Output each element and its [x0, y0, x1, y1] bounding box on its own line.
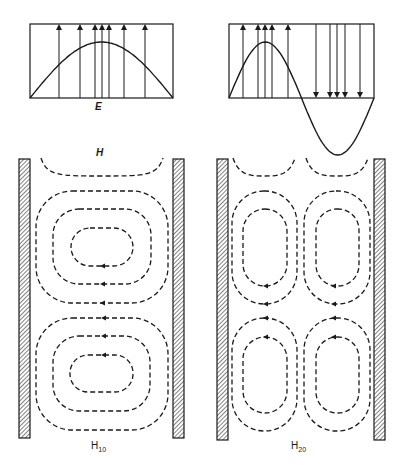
- h-field-loop: [243, 209, 287, 286]
- e-field-box: [229, 24, 374, 98]
- h-field-loop: [36, 191, 168, 303]
- waveguide-wall: [19, 159, 30, 438]
- h-field-direction-arrow-icon: [331, 302, 336, 307]
- h-field-direction-arrow-icon: [101, 334, 106, 339]
- waveguide-mode-diagram: [0, 0, 402, 465]
- h-field-loop: [316, 337, 359, 413]
- h-field-label: H: [96, 147, 103, 158]
- h-field-loop: [71, 228, 133, 266]
- h-field-direction-arrow-icon: [263, 316, 268, 321]
- h-field-loop-set: [36, 316, 168, 431]
- mode-label-h20: H20: [291, 440, 306, 453]
- h-field-loop: [36, 318, 168, 430]
- h-field-loop: [304, 191, 370, 304]
- h-field-waveguides: [19, 158, 385, 440]
- h-field-loop: [70, 355, 133, 392]
- h10-e-field: [30, 24, 173, 98]
- h-field-direction-arrow-icon: [100, 301, 105, 306]
- h-field-direction-arrow-icon: [101, 353, 106, 358]
- h-field-loop: [304, 318, 370, 431]
- h-field-direction-arrow-icon: [263, 302, 268, 307]
- h-field-loop: [53, 336, 150, 411]
- mode-label-h10: H10: [91, 440, 106, 453]
- h-field-direction-arrow-icon: [101, 316, 106, 321]
- h-field-loop-set: [36, 191, 168, 306]
- h-field-loop-set: [232, 191, 370, 307]
- h-field-partial-loop: [233, 158, 295, 176]
- h-field-loop: [316, 209, 359, 286]
- e-field-panels: [30, 24, 374, 155]
- h-field-direction-arrow-icon: [331, 335, 336, 340]
- e-field-label: E: [95, 101, 102, 112]
- h-field-loop: [53, 209, 151, 284]
- h-field-direction-arrow-icon: [100, 282, 105, 287]
- h-field-direction-arrow-icon: [263, 335, 268, 340]
- h-field-direction-arrow-icon: [263, 284, 268, 289]
- waveguide-wall: [217, 159, 228, 440]
- h-field-direction-arrow-icon: [331, 316, 336, 321]
- h20-e-field: [229, 24, 374, 155]
- h10-waveguide: [19, 158, 184, 438]
- waveguide-wall: [374, 159, 385, 440]
- h-field-loop-set: [232, 316, 370, 432]
- h20-waveguide: [217, 158, 385, 440]
- waveguide-wall: [173, 159, 184, 438]
- h-field-partial-loop: [41, 158, 163, 176]
- h-field-direction-arrow-icon: [331, 284, 336, 289]
- h-field-partial-loop: [306, 158, 368, 176]
- h-field-loop: [243, 337, 287, 413]
- h-field-direction-arrow-icon: [100, 264, 105, 269]
